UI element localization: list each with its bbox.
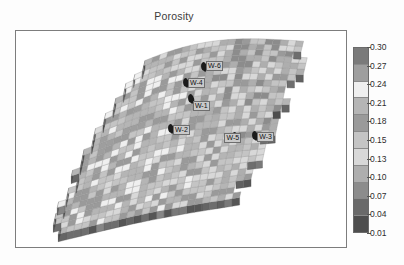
surface-cell — [241, 112, 250, 119]
surface-cell — [257, 39, 266, 45]
colorbar-ticks: 0.300.270.240.210.180.150.130.100.070.04… — [370, 41, 404, 239]
surface-cell — [263, 44, 272, 50]
surface-cells-svg — [16, 31, 346, 247]
surface-cell — [202, 202, 210, 211]
surface-cell — [287, 40, 296, 46]
surface-cell — [257, 73, 266, 79]
surface-cell — [274, 99, 283, 105]
surface-cell — [237, 61, 246, 67]
surface-cell — [269, 86, 278, 92]
figure-canvas: Porosity W-4W-1W-6W-2W-5W-3 0.300.270.24… — [0, 0, 404, 265]
surface-cell — [235, 106, 244, 113]
surface-cell — [290, 63, 299, 69]
colorbar-band — [354, 199, 368, 216]
surface-cell — [257, 111, 266, 118]
surface-cell — [244, 179, 252, 188]
surface-cell — [297, 63, 306, 69]
surface-cell — [256, 44, 265, 50]
surface-cell — [249, 112, 258, 119]
well-label: W-1 — [193, 101, 210, 111]
colorbar-tick-label: 0.07 — [370, 191, 387, 201]
surface-cell — [187, 205, 195, 214]
surface-cell — [259, 99, 268, 105]
surface-cell — [287, 80, 295, 88]
colorbar-band — [354, 115, 368, 132]
surface-cell — [264, 74, 273, 80]
surface-cell — [273, 111, 281, 119]
surface-cell — [247, 161, 255, 169]
surface-cell — [238, 55, 247, 61]
colorbar-tick-label: 0.24 — [370, 79, 387, 89]
surface-cell — [254, 86, 263, 92]
surface-cell — [233, 80, 242, 87]
surface-cell — [243, 105, 252, 112]
surface-cell — [259, 61, 268, 67]
colorbar-band — [354, 216, 368, 232]
colorbar-band — [354, 65, 368, 82]
colorbar-tick-label: 0.18 — [370, 116, 387, 126]
surface-cell — [251, 67, 260, 73]
surface-cell — [250, 105, 259, 112]
colorbar-tick-label: 0.27 — [370, 61, 387, 71]
surface-cell — [263, 80, 272, 86]
surface-cell — [276, 56, 285, 62]
surface-cell — [255, 118, 264, 125]
surface-cell — [268, 92, 277, 98]
surface-cell — [261, 55, 270, 61]
surface-cell — [228, 67, 237, 74]
surface-cell — [243, 67, 252, 73]
page-title: Porosity — [0, 10, 348, 22]
surface-cell — [252, 61, 261, 67]
surface-cell — [268, 56, 277, 62]
surface-cell — [262, 86, 271, 92]
surface-cell — [245, 92, 254, 99]
surface-cell — [293, 51, 301, 59]
surface-cell — [272, 39, 281, 45]
surface-cell — [232, 198, 240, 207]
surface-cell — [230, 93, 239, 100]
surface-cell — [233, 44, 242, 50]
surface-cell — [287, 74, 296, 80]
colorbar-tick-label: 0.30 — [370, 42, 387, 52]
surface-cell — [278, 80, 287, 86]
surface-cell — [242, 39, 251, 44]
surface-cell — [249, 39, 258, 44]
surface-cell — [225, 199, 233, 208]
surface-cell — [235, 67, 244, 73]
colorbar-band — [354, 166, 368, 183]
surface-cell — [229, 61, 238, 67]
surface-cell — [253, 92, 262, 98]
surface-cell — [234, 39, 243, 45]
colorbar-tick-label: 0.15 — [370, 135, 387, 145]
surface-cell — [240, 118, 249, 125]
colorbar-tick-label: 0.10 — [370, 172, 387, 182]
colorbar-band — [354, 48, 368, 65]
surface-cell — [295, 41, 304, 47]
well-label: W-6 — [206, 61, 223, 71]
surface-cell — [288, 68, 297, 74]
surface-cell — [282, 105, 290, 113]
surface-cell — [248, 44, 257, 50]
surface-cell — [244, 61, 253, 67]
surface-cell — [278, 45, 287, 51]
surface-cell — [249, 73, 258, 79]
colorbar-tick-label: 0.21 — [370, 98, 387, 108]
surface-cell — [270, 50, 279, 56]
surface-cell — [238, 92, 247, 99]
surface-cell — [273, 68, 282, 74]
surface-cell — [283, 57, 292, 63]
surface-cell — [282, 62, 291, 68]
surface-cell — [293, 46, 302, 52]
surface-cell — [240, 80, 249, 87]
surface-cell — [254, 50, 263, 56]
surface-cell — [179, 206, 187, 215]
surface-cell — [281, 68, 290, 74]
surface-cell — [241, 44, 250, 50]
surface-cell — [232, 50, 241, 56]
surface-cell — [263, 117, 272, 124]
surface-cell — [247, 50, 256, 56]
surface-cell — [265, 105, 274, 111]
surface-cell — [209, 201, 217, 210]
surface-cell — [255, 160, 263, 168]
surface-cell — [285, 51, 294, 57]
